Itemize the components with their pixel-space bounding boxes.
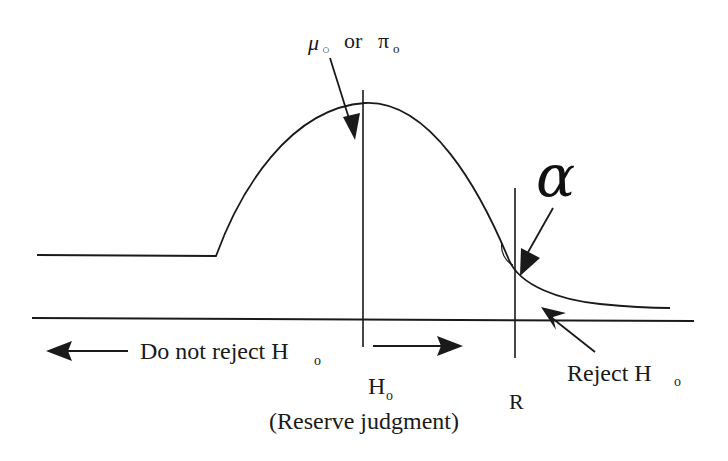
hypothesis-test-diagram: μ ○ or π o α Do not reject H o H o (Rese… (0, 0, 728, 461)
pi-symbol: π (378, 28, 389, 53)
reject-subscript: o (674, 374, 681, 389)
reject-pointer-arrow (541, 307, 595, 352)
do-not-reject-subscript: o (314, 353, 321, 368)
reserve-judgment-label: (Reserve judgment) (269, 408, 459, 434)
h0-subscript: o (386, 388, 393, 403)
do-not-reject-label: Do not reject H (140, 338, 289, 364)
mu-subscript: ○ (322, 42, 330, 57)
mean-label: μ ○ or π o (307, 28, 400, 57)
do-not-reject-arrow (46, 341, 128, 361)
reject-label: Reject H (567, 360, 652, 386)
mu-symbol: μ (307, 30, 319, 55)
critical-value-r-label: R (509, 389, 524, 414)
or-text: or (344, 28, 363, 53)
pi-subscript: o (393, 41, 400, 56)
h0-label: H (368, 373, 385, 399)
reserve-judgment-arrow (373, 336, 463, 356)
alpha-symbol: α (536, 142, 575, 210)
alpha-pointer-arrow (520, 208, 553, 276)
mean-pointer-arrow (330, 58, 360, 140)
